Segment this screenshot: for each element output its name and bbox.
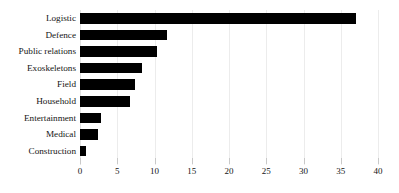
x-tick-mark-35 [341,158,342,164]
x-tick-label-40: 40 [374,166,383,176]
plot-area [80,10,378,165]
bar-entertainment [80,113,101,124]
bar-exoskeletons [80,63,142,74]
bar-row [80,27,378,44]
x-tick-label-15: 15 [187,166,196,176]
bar-row [80,110,378,127]
y-axis-label-logistic: Logistic [0,10,76,27]
y-axis-label-defence: Defence [0,27,76,44]
x-tick-mark-15 [192,158,193,164]
y-axis-category-labels: Logistic Defence Public relations Exoske… [0,10,76,165]
x-tick-mark-30 [304,158,305,164]
x-tick-label-20: 20 [225,166,234,176]
x-axis: 0510152025303540 [80,165,378,193]
bar-defence [80,30,167,41]
bar-row [80,76,378,93]
bar-field [80,79,135,90]
y-axis-label-public-relations: Public relations [0,43,76,60]
bar-row [80,143,378,160]
x-tick-label-0: 0 [78,166,83,176]
bar-row [80,93,378,110]
gridline-40 [378,10,379,165]
x-tick-mark-20 [229,158,230,164]
x-tick-mark-40 [378,158,379,164]
y-axis-label-household: Household [0,93,76,110]
bar-household [80,96,130,107]
bar-chart: Logistic Defence Public relations Exoske… [0,0,399,193]
x-tick-label-35: 35 [336,166,345,176]
y-axis-label-medical: Medical [0,126,76,143]
x-tick-mark-25 [266,158,267,164]
x-tick-label-30: 30 [299,166,308,176]
y-axis-label-exoskeletons: Exoskeletons [0,60,76,77]
x-tick-mark-5 [117,158,118,164]
bar-row [80,60,378,77]
bar-public-relations [80,46,157,57]
bar-row [80,126,378,143]
bar-row [80,43,378,60]
x-tick-mark-10 [155,158,156,164]
x-tick-label-10: 10 [150,166,159,176]
bar-construction [80,146,86,157]
bar-logistic [80,13,356,24]
x-tick-label-5: 5 [115,166,120,176]
y-axis-label-field: Field [0,76,76,93]
bar-series [80,10,378,165]
x-tick-mark-0 [80,158,81,164]
x-tick-label-25: 25 [262,166,271,176]
bar-medical [80,129,98,140]
bar-row [80,10,378,27]
y-axis-label-construction: Construction [0,143,76,160]
y-axis-label-entertainment: Entertainment [0,110,76,127]
